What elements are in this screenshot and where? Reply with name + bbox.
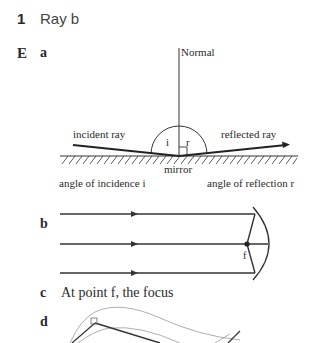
angle-incidence-label: angle of incidence i [59,177,145,189]
reflection-diagram [60,48,298,164]
reflected-ray-label: reflected ray [221,128,276,140]
incident-ray-label: incident ray [73,128,125,140]
light-path-diagram [70,307,240,343]
concave-mirror-diagram [60,207,269,280]
angle-i-label: i [166,136,169,148]
focus-label: f [243,250,246,261]
part-d-label: d [40,314,48,330]
part-b-label: b [40,216,48,232]
part-c-answer: At point f, the focus [61,285,173,301]
angle-reflection-label: angle of reflection r [207,177,294,189]
normal-label: Normal [181,46,215,58]
angle-r-label: r [186,136,190,148]
mirror-label: mirror [164,163,192,175]
part-c-label: c [40,285,46,301]
